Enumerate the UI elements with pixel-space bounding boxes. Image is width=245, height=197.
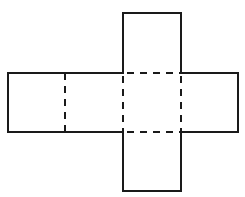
cuboid-net-diagram — [0, 0, 245, 197]
